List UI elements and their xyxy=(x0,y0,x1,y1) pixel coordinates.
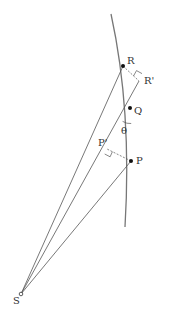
label-q: Q xyxy=(134,105,142,116)
diagram-canvas: R R' Q θ P' P S xyxy=(0,0,170,316)
label-p: P xyxy=(136,155,143,166)
point-p-dot xyxy=(129,159,133,163)
angle-theta-arc xyxy=(123,121,132,123)
right-angle-marker-rprime xyxy=(134,71,143,76)
line-s-p xyxy=(21,161,131,294)
line-s-q-extended xyxy=(21,81,139,294)
right-angle-marker-pprime xyxy=(105,152,113,157)
line-s-r xyxy=(21,66,123,294)
label-pprime: P' xyxy=(98,137,107,148)
label-s: S xyxy=(13,295,20,306)
point-r-dot xyxy=(121,64,125,68)
point-q-dot xyxy=(128,106,132,110)
perpendicular-r-rprime xyxy=(123,66,139,81)
orbit-curve xyxy=(111,14,127,227)
orbit-diagram: R R' Q θ P' P S xyxy=(0,0,170,316)
label-rprime: R' xyxy=(144,75,154,86)
label-r: R xyxy=(127,55,135,66)
label-theta: θ xyxy=(121,125,127,136)
